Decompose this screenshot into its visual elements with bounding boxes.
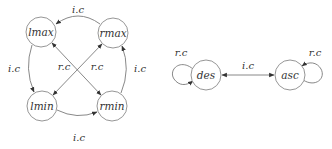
node-label: lmin: [30, 100, 54, 112]
state-diagram: lmax rmax lmin rmin i.c i.c i.c i.c r.c …: [0, 0, 332, 149]
node-label: rmin: [99, 100, 124, 112]
node-label: rmax: [99, 27, 126, 39]
edge-rmax-lmax: [56, 16, 100, 24]
edge-rmin-rmax: [121, 46, 126, 93]
edge-label-top: i.c: [72, 4, 84, 15]
node-rmin: rmin: [97, 91, 127, 121]
edge-label-des-self: r.c: [175, 47, 188, 58]
edge-des-self: [172, 65, 193, 85]
edge-lmin-rmin: [57, 110, 97, 116]
node-label: asc: [281, 69, 299, 81]
edge-label-bottom: i.c: [73, 132, 85, 143]
node-label: lmax: [28, 26, 54, 38]
node-rmax: rmax: [98, 18, 128, 48]
node-lmin: lmin: [27, 91, 57, 121]
edge-label-right: i.c: [134, 63, 146, 74]
edge-label-diag-left: r.c: [58, 61, 71, 72]
node-des: des: [191, 60, 221, 90]
node-label: des: [197, 69, 216, 81]
edge-label-des-asc: i.c: [242, 60, 254, 71]
edge-lmax-lmin: [28, 45, 34, 92]
edge-label-left: i.c: [8, 63, 20, 74]
node-asc: asc: [275, 60, 305, 90]
node-lmax: lmax: [26, 17, 56, 47]
edge-label-diag-right: r.c: [91, 61, 104, 72]
edge-label-asc-self: r.c: [309, 47, 322, 58]
